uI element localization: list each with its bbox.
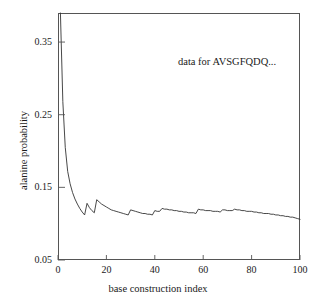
chart-annotation: data for AVSGFQDQ... [178, 56, 276, 67]
x-tick-label: 60 [188, 265, 218, 275]
x-tick-label: 40 [140, 265, 170, 275]
x-axis-tick-marks [58, 255, 300, 260]
y-tick-label: 0.05 [18, 255, 52, 265]
x-axis-title: base construction index [0, 283, 316, 294]
x-tick-label: 20 [91, 265, 121, 275]
chart-container: 0.050.150.250.35 020406080100 data for A… [0, 0, 316, 307]
x-tick-label: 100 [285, 265, 315, 275]
data-curve-layer [58, 13, 300, 260]
x-tick-label: 80 [237, 265, 267, 275]
y-axis-title: alanine probability [18, 111, 29, 190]
series-line-alanine-probability [60, 13, 300, 219]
y-tick-label: 0.35 [18, 37, 52, 47]
x-tick-label: 0 [43, 265, 73, 275]
y-axis-tick-marks [58, 42, 65, 260]
